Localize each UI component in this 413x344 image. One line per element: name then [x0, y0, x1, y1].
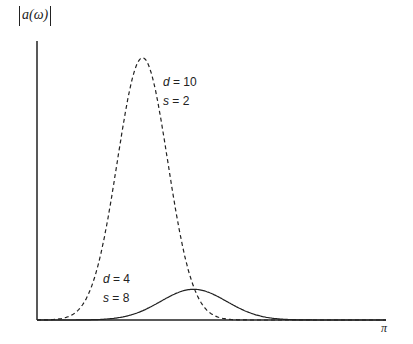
annotation-d4: d = 4: [103, 272, 130, 286]
annotation-s8: s = 8: [103, 291, 129, 305]
x-axis-end-label: π: [381, 321, 387, 336]
chart-plot-area: [0, 0, 413, 344]
dashed-curve-d10-s2: [37, 58, 386, 320]
solid-curve-d4-s8: [37, 289, 386, 320]
annotation-d10: d = 10: [163, 75, 197, 89]
annotation-s2: s = 2: [163, 94, 189, 108]
y-axis-label: a(ω): [17, 6, 53, 26]
